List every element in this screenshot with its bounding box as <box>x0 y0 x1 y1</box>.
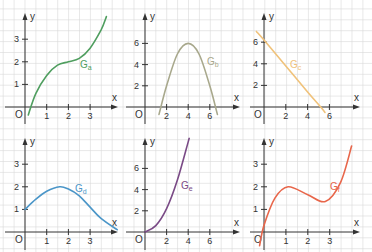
y-tick-label: 2 <box>14 57 19 67</box>
function-graphs-figure: xyO123123GaxyO246246GbxyO246246GcxyO1231… <box>0 0 372 252</box>
y-axis-arrow-icon <box>143 138 148 145</box>
y-tick-label: 3 <box>14 34 19 44</box>
y-tick-label: 3 <box>253 159 258 169</box>
x-tick-label: 4 <box>186 111 191 121</box>
graph-label-e: Ge <box>181 180 193 192</box>
graph-curve-f <box>260 146 352 246</box>
origin-label: O <box>254 109 262 120</box>
graph-label-subscript: e <box>189 185 193 192</box>
graph-label-a: Ga <box>80 59 92 71</box>
x-tick-label: 2 <box>283 111 288 121</box>
origin-label: O <box>135 234 143 245</box>
graph-panel-f: xyO123123Gf <box>250 136 360 250</box>
y-tick-label: 2 <box>14 182 19 192</box>
x-tick-label: 4 <box>186 236 191 246</box>
graph-curve-c <box>256 31 325 112</box>
y-tick-label: 2 <box>253 80 258 90</box>
x-tick-label: 1 <box>44 111 49 121</box>
y-tick-label: 6 <box>134 163 139 173</box>
graph-label-b: Gb <box>207 56 219 68</box>
graph-curve-a <box>28 17 106 115</box>
y-tick-label: 1 <box>253 204 258 214</box>
graph-label-subscript: c <box>298 64 302 71</box>
graph-label-d: Gd <box>75 183 87 195</box>
x-tick-label: 6 <box>207 236 212 246</box>
x-axis-arrow-icon <box>353 105 360 110</box>
x-axis-label: x <box>234 92 239 103</box>
y-tick-label: 3 <box>14 159 19 169</box>
y-axis-arrow-icon <box>23 13 28 20</box>
x-axis-label: x <box>354 217 359 228</box>
y-axis-arrow-icon <box>262 138 267 145</box>
graph-label-f: Gf <box>330 181 340 193</box>
x-axis-label: x <box>234 217 239 228</box>
graphs-canvas: xyO123123GaxyO246246GbxyO246246GcxyO1231… <box>0 0 372 252</box>
panels: xyO123123GaxyO246246GbxyO246246GcxyO1231… <box>5 11 360 250</box>
graph-label-subscript: a <box>88 64 92 71</box>
y-axis-label: y <box>30 11 35 22</box>
origin-label: O <box>15 234 23 245</box>
y-tick-label: 6 <box>134 38 139 48</box>
y-axis-label: y <box>269 136 274 147</box>
y-axis-arrow-icon <box>23 138 28 145</box>
x-axis-label: x <box>354 92 359 103</box>
x-axis-label: x <box>112 92 117 103</box>
x-tick-label: 1 <box>283 236 288 246</box>
y-tick-label: 1 <box>14 204 19 214</box>
y-tick-label: 4 <box>134 185 139 195</box>
graph-panel-e: xyO246246Ge <box>126 136 240 250</box>
x-tick-label: 2 <box>66 236 71 246</box>
y-axis-label: y <box>269 11 274 22</box>
graph-curve-d <box>25 187 117 230</box>
y-tick-label: 6 <box>253 37 258 47</box>
y-axis-arrow-icon <box>262 13 267 20</box>
x-axis-arrow-icon <box>233 105 240 110</box>
graph-label-subscript: f <box>338 186 340 193</box>
y-tick-label: 4 <box>134 60 139 70</box>
x-tick-label: 2 <box>164 236 169 246</box>
y-axis-label: y <box>150 136 155 147</box>
graph-label-subscript: d <box>83 188 87 195</box>
x-tick-label: 3 <box>327 236 332 246</box>
x-axis-arrow-icon <box>233 230 240 235</box>
x-tick-label: 3 <box>88 236 93 246</box>
x-tick-label: 1 <box>44 236 49 246</box>
x-tick-label: 6 <box>207 111 212 121</box>
y-tick-label: 2 <box>253 182 258 192</box>
graph-panel-c: xyO246246Gc <box>250 11 360 124</box>
y-axis-label: y <box>150 11 155 22</box>
y-tick-label: 2 <box>134 81 139 91</box>
x-axis-arrow-icon <box>353 230 360 235</box>
x-tick-label: 4 <box>305 111 310 121</box>
x-tick-label: 6 <box>327 111 332 121</box>
y-tick-label: 1 <box>14 79 19 89</box>
y-tick-label: 2 <box>134 206 139 216</box>
y-tick-label: 4 <box>253 59 258 69</box>
graph-label-c: Gc <box>290 59 302 71</box>
graph-panel-b: xyO246246Gb <box>126 11 240 124</box>
graph-label-subscript: b <box>215 61 219 68</box>
x-axis-arrow-icon <box>111 105 118 110</box>
x-tick-label: 2 <box>305 236 310 246</box>
origin-label: O <box>15 109 23 120</box>
grid <box>0 0 372 252</box>
x-tick-label: 2 <box>66 111 71 121</box>
x-tick-label: 3 <box>88 111 93 121</box>
y-axis-label: y <box>30 136 35 147</box>
x-tick-label: 2 <box>164 111 169 121</box>
y-axis-arrow-icon <box>143 13 148 20</box>
origin-label: O <box>135 109 143 120</box>
